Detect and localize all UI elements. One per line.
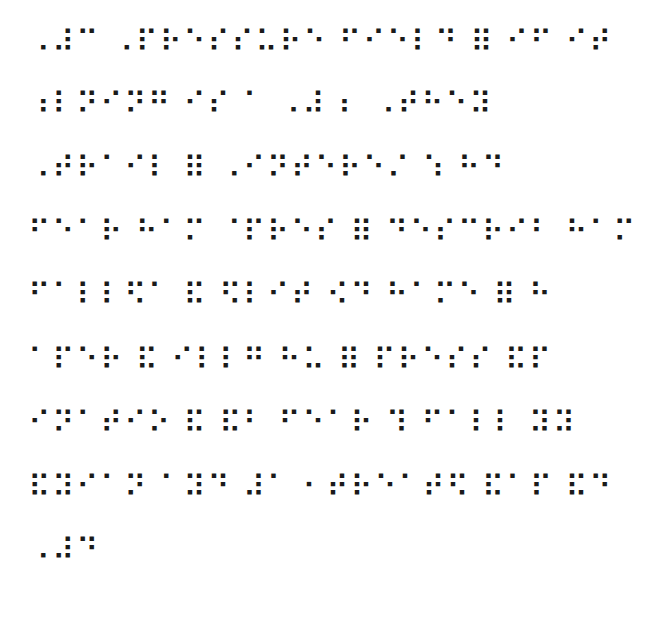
braille-page: ⠠⠼⠉ ⠠⠏⠗⠑⠎⠎⠥⠗⠑ ⠋⠊⠑⠇⠙ ⠿ ⠊⠋ ⠊⠞ ⠰⠇⠝⠊⠝⠛ ⠊⠎ ⠁ … <box>0 0 666 623</box>
braille-line: ⠁⠏⠑⠗ ⠯ ⠊⠇⠇⠛ ⠓⠥ ⠿ ⠏⠗⠑⠎⠎ ⠯⠏ <box>28 340 648 380</box>
braille-line: ⠠⠞⠗⠁⠊⠇ ⠿ ⠠⠊⠝⠞⠑⠗⠑⠌ ⠱ ⠓⠙ <box>28 148 648 188</box>
braille-line: ⠋⠁⠇⠇⠫⠁ ⠯ ⠫⠇⠊⠞ ⠪⠙ ⠓⠁⠍⠑ ⠿ ⠓ <box>28 275 648 315</box>
braille-line: ⠠⠼⠙ <box>28 530 648 570</box>
braille-line: ⠋⠑⠁⠗ ⠓⠁⠍ ⠈⠏⠗⠑⠎ ⠿ ⠙⠑⠎⠉⠗⠊⠃ ⠓⠁⠍ <box>28 212 648 252</box>
braille-line: ⠰⠇⠝⠊⠝⠛ ⠊⠎ ⠁ ⠠⠼ ⠆ ⠠⠞⠓⠑⠽ <box>28 84 648 124</box>
braille-line: ⠊⠝⠁⠞⠊⠕ ⠯ ⠯⠃ ⠋⠑⠁⠗ ⠹ ⠋⠁⠇⠇ ⠽⠽ <box>28 403 648 443</box>
braille-line: ⠯⠽⠊⠁⠝ ⠁⠽⠙ ⠼⠁ ⠂⠞⠗⠑⠁⠞⠫ ⠯⠁⠏ ⠯⠙ <box>28 467 648 507</box>
braille-line: ⠠⠼⠉ ⠠⠏⠗⠑⠎⠎⠥⠗⠑ ⠋⠊⠑⠇⠙ ⠿ ⠊⠋ ⠊⠞ <box>28 22 648 62</box>
